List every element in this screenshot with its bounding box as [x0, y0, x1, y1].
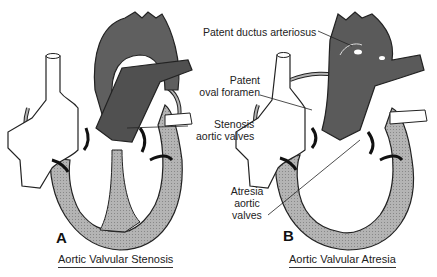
heart-a	[8, 12, 192, 250]
caption-b: Aortic Valvular Atresia	[289, 253, 396, 268]
label-line: valves	[222, 209, 272, 221]
label-line: oval foramen	[193, 86, 260, 98]
label-line: Patent	[193, 74, 260, 86]
septum-a	[100, 150, 140, 232]
caption-a: Aortic Valvular Stenosis	[58, 253, 173, 268]
label-patent-ductus-arteriosus: Patent ductus arteriosus	[203, 26, 316, 38]
label-line: Atresia	[222, 185, 272, 197]
panel-letter-b: B	[283, 227, 294, 244]
label-stenosis-aortic-valves: Stenosis aortic valves	[196, 118, 254, 142]
panel-letter-a: A	[56, 229, 67, 246]
label-atresia-aortic-valves: Atresia aortic valves	[222, 185, 272, 221]
label-line: aortic	[222, 197, 272, 209]
label-patent-oval-foramen: Patent oval foramen	[193, 74, 260, 98]
label-line: Stenosis	[196, 118, 254, 130]
label-line: aortic valves	[196, 130, 254, 142]
